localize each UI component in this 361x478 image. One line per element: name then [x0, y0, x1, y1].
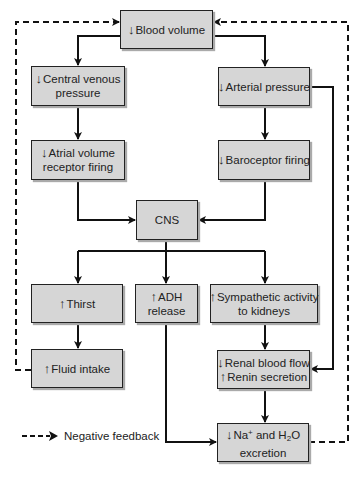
arterial-pressure-box: ↓Arterial pressure	[218, 67, 310, 106]
atrial-volume-receptor-box: ↓Atrial volume receptor firing	[31, 140, 125, 180]
adh-label-1: ADH	[158, 291, 182, 303]
sympathetic-label-1: Sympathetic activity	[217, 291, 319, 303]
adh-label-2: release	[148, 304, 186, 318]
renal-blood-flow-box: ↓Renal blood flow ↑Renin secretion	[217, 350, 310, 389]
sympathetic-activity-box: ↑Sympathetic activity to kidneys	[210, 284, 318, 323]
down-arrow-icon: ↓	[218, 79, 225, 94]
thirst-box: ↑Thirst	[31, 284, 123, 323]
renal-label-1: Renal blood flow	[225, 357, 310, 369]
na-label: Na	[233, 429, 248, 441]
thirst-label: Thirst	[66, 298, 95, 310]
down-arrow-icon: ↓	[128, 22, 135, 37]
up-arrow-icon: ↑	[59, 296, 66, 311]
central-venous-label-2: pressure	[36, 86, 121, 100]
blood-volume-label: Blood volume	[135, 24, 205, 36]
up-arrow-icon: ↑	[151, 289, 158, 304]
down-arrow-icon: ↓	[226, 427, 233, 442]
sympathetic-label-2: to kidneys	[209, 304, 318, 318]
up-arrow-icon: ↑	[220, 369, 227, 384]
baroceptor-firing-box: ↓Baroceptor firing	[218, 140, 310, 180]
and-h-label: and H	[253, 429, 287, 441]
o-label: O	[291, 429, 300, 441]
central-venous-pressure-box: ↓Central venous pressure	[31, 66, 125, 106]
cns-box: CNS	[136, 200, 198, 240]
na-h2o-excretion-box: ↓Na+ and H2O excretion	[217, 423, 309, 462]
legend: Negative feedback	[22, 429, 159, 443]
legend-label: Negative feedback	[64, 430, 159, 442]
baroceptor-label: Baroceptor firing	[226, 154, 310, 166]
central-venous-label-1: Central venous	[43, 73, 120, 85]
up-arrow-icon: ↑	[209, 289, 216, 304]
blood-volume-box: ↓Blood volume	[120, 10, 213, 49]
fluid-intake-box: ↑Fluid intake	[31, 349, 123, 388]
down-arrow-icon: ↓	[217, 355, 224, 370]
adh-release-box: ↑ADH release	[135, 284, 198, 323]
up-arrow-icon: ↑	[44, 361, 51, 376]
down-arrow-icon: ↓	[218, 152, 225, 167]
cns-label: CNS	[155, 213, 179, 227]
fluid-intake-label: Fluid intake	[51, 363, 110, 375]
atrial-label-1: Atrial volume	[49, 147, 115, 159]
dashed-arrow-icon	[22, 429, 58, 443]
excretion-label: excretion	[226, 446, 300, 460]
atrial-label-2: receptor firing	[41, 160, 115, 174]
down-arrow-icon: ↓	[36, 71, 43, 86]
renal-label-2: Renin secretion	[227, 371, 307, 383]
down-arrow-icon: ↓	[41, 145, 48, 160]
arterial-pressure-label: Arterial pressure	[226, 81, 310, 93]
